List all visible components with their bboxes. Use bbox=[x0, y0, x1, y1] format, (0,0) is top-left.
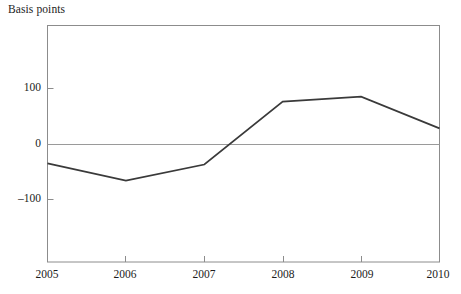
plot-area bbox=[0, 0, 461, 294]
x-tick-label-2008: 2008 bbox=[259, 268, 307, 281]
x-tick-label-2007: 2007 bbox=[180, 268, 228, 281]
line-chart-figure: Basis points 100 0 –100 2005 2006 2007 2… bbox=[0, 0, 461, 294]
x-tick-label-2006: 2006 bbox=[101, 268, 149, 281]
x-tick-label-2009: 2009 bbox=[338, 268, 386, 281]
x-tick-label-2010: 2010 bbox=[414, 268, 461, 281]
data-series-line bbox=[48, 97, 440, 181]
y-tick-label-minus-100: –100 bbox=[2, 192, 41, 205]
y-tick-label-100: 100 bbox=[6, 81, 41, 94]
x-axis-ticks bbox=[126, 256, 362, 262]
plot-frame bbox=[48, 26, 440, 263]
x-tick-label-2005: 2005 bbox=[23, 268, 71, 281]
y-tick-label-0: 0 bbox=[6, 137, 41, 150]
